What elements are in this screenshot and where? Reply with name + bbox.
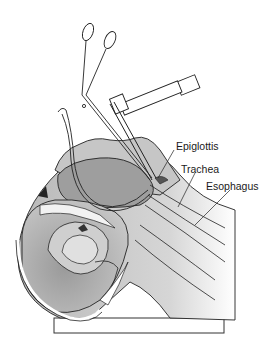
label-epiglottis: Epiglottis <box>176 141 219 152</box>
diagram-canvas: Epiglottis Trachea Esophagus <box>0 0 275 348</box>
label-trachea: Trachea <box>181 164 219 175</box>
label-esophagus: Esophagus <box>206 181 259 192</box>
